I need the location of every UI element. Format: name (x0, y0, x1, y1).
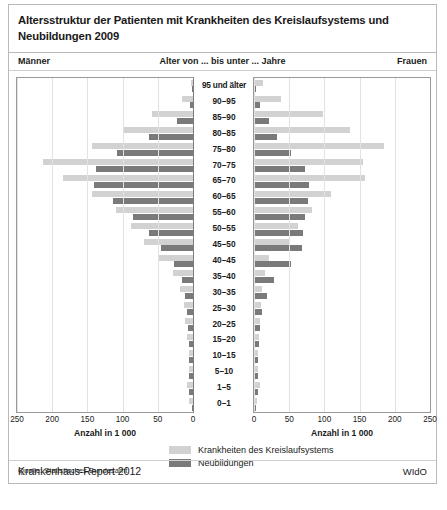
bar-kreislauf (92, 143, 193, 149)
legend-swatch (169, 446, 191, 454)
bar-row (254, 173, 430, 189)
bar-kreislauf (144, 239, 193, 245)
bar-neubildungen (254, 198, 308, 204)
bar-row (254, 189, 430, 205)
bars-women (254, 78, 430, 412)
bar-row (17, 348, 193, 364)
bar-row (17, 221, 193, 237)
bar-row (17, 396, 193, 412)
bar-neubildungen (254, 182, 309, 188)
bar-kreislauf (254, 270, 265, 276)
bar-row (17, 158, 193, 174)
age-group-label: 35–40 (195, 271, 253, 281)
bar-kreislauf (254, 239, 289, 245)
gridline (360, 78, 361, 412)
bar-neubildungen (149, 230, 193, 236)
bar-row (254, 348, 430, 364)
bar-row (254, 333, 430, 349)
axis-tick-label: 150 (81, 415, 95, 424)
chart-figure: Altersstruktur der Patienten mit Krankhe… (8, 4, 437, 484)
bar-kreislauf (254, 286, 262, 292)
bar-row (17, 237, 193, 253)
bar-kreislauf (254, 207, 312, 213)
axis-tick-label: 0 (252, 415, 257, 424)
gridline (158, 78, 159, 412)
bar-kreislauf (43, 159, 193, 165)
bar-neubildungen (254, 261, 291, 267)
age-group-label: 55–60 (195, 207, 253, 217)
bar-row (254, 364, 430, 380)
gridline (254, 78, 255, 412)
chart-title-bar: Altersstruktur der Patienten mit Krankhe… (9, 5, 436, 53)
header-label-women: Frauen (397, 56, 427, 66)
bar-row (254, 237, 430, 253)
axis-tick-label: 150 (353, 415, 367, 424)
age-group-label: 30–35 (195, 287, 253, 297)
age-group-label: 90–95 (195, 96, 253, 106)
bar-neubildungen (161, 245, 193, 251)
bar-row (17, 317, 193, 333)
age-group-label: 65–70 (195, 175, 253, 185)
age-group-label: 5–10 (195, 366, 253, 376)
axis-tick-label: 50 (285, 415, 294, 424)
bar-neubildungen (254, 150, 291, 156)
bar-kreislauf (254, 302, 261, 308)
bar-row (254, 221, 430, 237)
bar-row (254, 126, 430, 142)
age-group-label: 0–1 (195, 398, 253, 408)
bar-row (254, 301, 430, 317)
age-group-label: 80–85 (195, 128, 253, 138)
bar-row (17, 78, 193, 94)
bar-row (254, 78, 430, 94)
bar-neubildungen (117, 150, 193, 156)
bar-row (17, 189, 193, 205)
gridline (395, 78, 396, 412)
age-group-label: 40–45 (195, 255, 253, 265)
bar-kreislauf (254, 96, 281, 102)
bar-neubildungen (254, 118, 269, 124)
bar-neubildungen (254, 293, 267, 299)
bar-neubildungen (254, 134, 277, 140)
axis-tick-label: 250 (423, 415, 437, 424)
x-axis-title-women: Anzahl in 1 000 (253, 428, 431, 438)
age-group-labels: 95 und älter90–9585–9080–8575–8070–7565–… (195, 77, 253, 413)
bar-neubildungen (174, 261, 193, 267)
gridline (87, 78, 88, 412)
institute-name: WIdO (403, 466, 427, 477)
bar-kreislauf (182, 96, 193, 102)
bar-neubildungen (113, 198, 193, 204)
bar-kreislauf (131, 223, 193, 229)
bar-neubildungen (185, 293, 193, 299)
bar-row (254, 285, 430, 301)
x-axis-women: 050100150200250 (253, 415, 431, 427)
gridline (52, 78, 53, 412)
page-title: Altersstruktur der Patienten mit Krankhe… (18, 12, 427, 44)
bar-kreislauf (92, 191, 193, 197)
age-group-label: 75–80 (195, 144, 253, 154)
bar-kreislauf (254, 255, 269, 261)
age-group-label: 15–20 (195, 334, 253, 344)
bar-row (254, 158, 430, 174)
axis-tick-label: 0 (191, 415, 196, 424)
bar-kreislauf (254, 191, 331, 197)
axis-tick-label: 200 (388, 415, 402, 424)
gridline (123, 78, 124, 412)
bar-row (17, 380, 193, 396)
bar-row (17, 269, 193, 285)
gridline (430, 78, 431, 412)
gridline (289, 78, 290, 412)
gridline (193, 78, 194, 412)
x-axis-title-men: Anzahl in 1 000 (16, 428, 194, 438)
bar-row (17, 301, 193, 317)
panel-men (16, 77, 194, 413)
bar-row (17, 142, 193, 158)
bar-row (254, 396, 430, 412)
bar-kreislauf (254, 223, 298, 229)
axis-tick-label: 200 (45, 415, 59, 424)
footer-bar: Krankenhaus-Report 2012 WIdO (9, 460, 436, 483)
bar-neubildungen (177, 118, 193, 124)
gridline (324, 78, 325, 412)
age-group-label: 50–55 (195, 223, 253, 233)
bar-kreislauf (63, 175, 193, 181)
bar-row (17, 253, 193, 269)
